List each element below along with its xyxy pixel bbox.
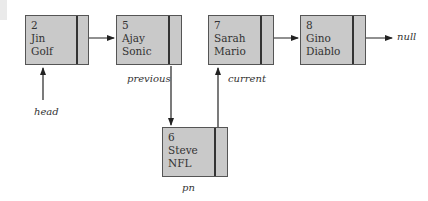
- pn-label: pn: [182, 182, 195, 193]
- node-first-name: Jin: [31, 32, 53, 45]
- node-last-name: NFL: [168, 157, 198, 170]
- node-last-name: Mario: [214, 45, 246, 58]
- node-number: 7: [214, 19, 246, 32]
- list-node-5: 5 Ajay Sonic: [116, 15, 182, 65]
- node-last-name: Diablo: [306, 45, 340, 58]
- head-label: head: [34, 106, 59, 117]
- pointer-divider: [76, 16, 78, 64]
- previous-label: previous: [127, 73, 171, 84]
- pointer-divider: [352, 16, 354, 64]
- node-first-name: Gino: [306, 32, 340, 45]
- list-node-8: 8 Gino Diablo: [300, 15, 366, 65]
- node-first-name: Steve: [168, 144, 198, 157]
- node-number: 5: [122, 19, 152, 32]
- list-node-2: 2 Jin Golf: [25, 15, 89, 65]
- node-number: 2: [31, 19, 53, 32]
- node-first-name: Sarah: [214, 32, 246, 45]
- node-last-name: Golf: [31, 45, 53, 58]
- node-first-name: Ajay: [122, 32, 152, 45]
- pointer-divider: [168, 16, 170, 64]
- pointer-divider: [260, 16, 262, 64]
- node-last-name: Sonic: [122, 45, 152, 58]
- current-label: current: [228, 73, 266, 84]
- node-number: 6: [168, 131, 198, 144]
- linked-list-diagram: 2 Jin Golf 5 Ajay Sonic 7 Sarah Mario 8 …: [0, 0, 428, 201]
- null-label: null: [397, 31, 416, 42]
- list-node-7: 7 Sarah Mario: [208, 15, 274, 65]
- pointer-divider: [214, 128, 216, 176]
- list-node-6: 6 Steve NFL: [162, 127, 228, 177]
- node-number: 8: [306, 19, 340, 32]
